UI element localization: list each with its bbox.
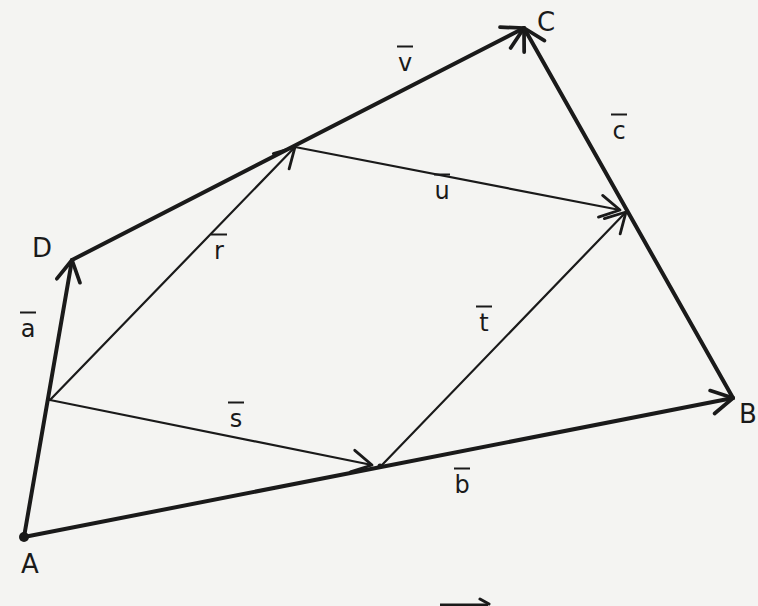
vector-label-u: u bbox=[434, 174, 450, 203]
vector-s-arrow bbox=[50, 400, 372, 465]
overbar bbox=[454, 468, 470, 470]
vector-a-arrow bbox=[24, 260, 72, 537]
vector-label-t-text: t bbox=[479, 309, 488, 337]
vector-u-arrow bbox=[295, 147, 620, 210]
vector-label-b: b bbox=[454, 468, 470, 497]
point-label-b: B bbox=[739, 401, 757, 427]
cropped-arrowhead-bottom bbox=[480, 599, 489, 604]
point-a-dot bbox=[19, 532, 29, 542]
vector-label-s: s bbox=[228, 402, 244, 431]
overbar bbox=[434, 174, 450, 176]
point-label-c: C bbox=[537, 9, 555, 35]
vector-label-r-text: r bbox=[214, 237, 224, 265]
vector-label-c: c bbox=[611, 114, 627, 143]
vector-label-v: v bbox=[397, 46, 413, 75]
overbar bbox=[397, 46, 413, 48]
vector-label-a: a bbox=[20, 312, 36, 341]
overbar bbox=[476, 306, 492, 308]
vector-label-c-text: c bbox=[612, 117, 625, 145]
vector-label-a-text: a bbox=[21, 315, 36, 343]
vector-label-r: r bbox=[211, 234, 227, 263]
point-ab-midpoint-dot bbox=[378, 464, 383, 469]
diagram-canvas bbox=[0, 0, 758, 606]
vector-c-arrow bbox=[524, 28, 733, 398]
point-label-a: A bbox=[21, 551, 39, 577]
vector-v-arrow bbox=[72, 28, 524, 260]
overbar bbox=[228, 402, 244, 404]
point-label-d: D bbox=[32, 235, 52, 261]
vector-label-v-text: v bbox=[398, 49, 412, 77]
vector-label-b-text: b bbox=[454, 471, 469, 499]
vector-label-u-text: u bbox=[434, 177, 449, 205]
vector-label-s-text: s bbox=[230, 405, 243, 433]
vector-diagram: A B C D a b c v r s t u bbox=[0, 0, 758, 606]
vector-label-t: t bbox=[476, 306, 492, 335]
overbar bbox=[211, 234, 227, 236]
overbar bbox=[20, 312, 36, 314]
vector-r-arrow bbox=[50, 147, 295, 400]
overbar bbox=[611, 114, 627, 116]
